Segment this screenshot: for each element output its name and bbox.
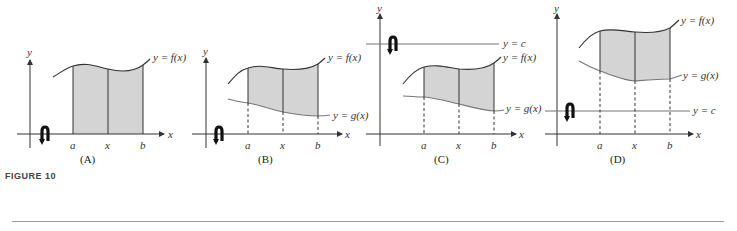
tick-a: a (597, 139, 603, 151)
rotation-arrow-icon (39, 127, 48, 145)
rotation-arrow-icon (564, 104, 573, 122)
panel-d: y x a x b y = f(x) y = g(x) y = c (D) (545, 2, 719, 166)
y-axis-label: y (376, 2, 382, 14)
tick-a: a (421, 139, 427, 151)
tick-x: x (104, 139, 110, 151)
x-axis-label: x (167, 128, 173, 140)
caption-a: (A) (80, 153, 96, 166)
figure-label: FIGURE 10 (5, 171, 56, 181)
divider-rule (12, 221, 724, 222)
caption-d: (D) (610, 153, 626, 166)
y-axis-label: y (26, 46, 32, 58)
label-c: y = c (502, 37, 526, 49)
tick-a: a (70, 139, 76, 151)
figure-10: y x a x b y = f(x) (A) y x a x b y = f(x… (0, 0, 737, 231)
panel-b: y x a x b y = f(x) y = g(x) (B) (192, 45, 369, 166)
label-c: y = c (692, 104, 716, 116)
label-f: y = f(x) (327, 51, 361, 64)
tick-b: b (491, 139, 497, 151)
x-axis-label: x (518, 128, 524, 140)
label-f: y = f(x) (502, 51, 536, 64)
rotation-arrow-icon (213, 127, 222, 145)
caption-c: (C) (434, 153, 449, 166)
x-axis-label: x (344, 128, 350, 140)
tick-x: x (455, 139, 461, 151)
label-g: y = g(x) (505, 102, 542, 115)
panel-a: y x a x b y = f(x) (A) (17, 46, 186, 166)
tick-b: b (667, 139, 673, 151)
y-axis-label: y (553, 2, 559, 14)
label-f: y = f(x) (680, 14, 714, 27)
tick-b: b (315, 139, 321, 151)
label-f: y = f(x) (152, 51, 186, 64)
tick-a: a (245, 139, 251, 151)
rotation-arrow-icon (387, 37, 396, 55)
panel-c: y x a x b y = c y = f(x) y = g(x) (C) (366, 2, 542, 166)
y-axis-label: y (202, 45, 208, 57)
label-g: y = g(x) (332, 109, 369, 122)
caption-b: (B) (258, 153, 273, 166)
tick-x: x (279, 139, 285, 151)
tick-b: b (140, 139, 146, 151)
label-g: y = g(x) (682, 69, 719, 82)
tick-x: x (631, 139, 637, 151)
x-axis-label: x (695, 128, 701, 140)
